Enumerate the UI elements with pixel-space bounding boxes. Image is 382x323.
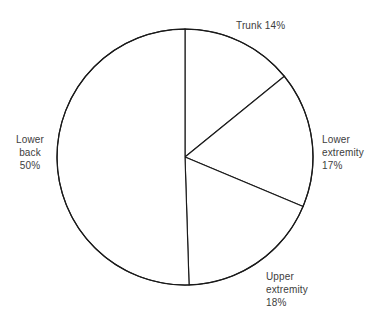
pie-slices [57, 29, 313, 285]
pie-label-lower-extremity: Lower extremity 17% [322, 133, 364, 172]
pie-slice-lower-back[interactable] [57, 29, 189, 285]
pie-label-trunk: Trunk 14% [236, 19, 285, 32]
pie-label-lower-back: Lower back 50% [6, 133, 54, 172]
pie-label-upper-extremity: Upper extremity 18% [266, 270, 308, 309]
pie-chart-figure: Trunk 14% Lower extremity 17% Upper extr… [0, 0, 382, 323]
